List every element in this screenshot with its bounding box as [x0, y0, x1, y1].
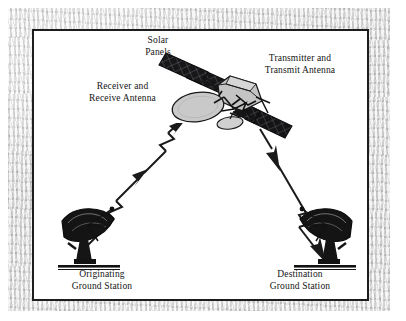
label-solar-panels-line1: Solar [122, 35, 194, 47]
uplink-mid-arrowhead [132, 169, 148, 187]
label-receiver-line2: Receive Antenna [60, 93, 185, 105]
label-destination-ground-station: Destination Ground Station [240, 269, 360, 292]
label-transmitter-line2: Transmit Antenna [234, 65, 366, 77]
label-receiver-line1: Receiver and [60, 81, 185, 93]
label-solar-panels: Solar Panels [122, 35, 194, 58]
label-transmitter-antenna: Transmitter and Transmit Antenna [234, 53, 366, 76]
label-dest-line2: Ground Station [240, 281, 360, 293]
dest-dish-reflector [300, 207, 352, 242]
origin-dish-reflector [62, 207, 114, 242]
figure-frame: Solar Panels Transmitter and Transmit An… [32, 29, 369, 301]
downlink-upper-arrowhead [266, 145, 280, 171]
label-dest-line1: Destination [240, 269, 360, 281]
label-origin-line1: Originating [42, 269, 162, 281]
label-solar-panels-line2: Panels [122, 47, 194, 59]
label-origin-line2: Ground Station [42, 281, 162, 293]
label-receiver-antenna: Receiver and Receive Antenna [60, 81, 185, 104]
figure-page: Solar Panels Transmitter and Transmit An… [0, 0, 406, 321]
origin-dish-pedestal [68, 239, 96, 264]
label-originating-ground-station: Originating Ground Station [42, 269, 162, 292]
dest-dish-pedestal [318, 239, 346, 264]
label-transmitter-line1: Transmitter and [234, 53, 366, 65]
